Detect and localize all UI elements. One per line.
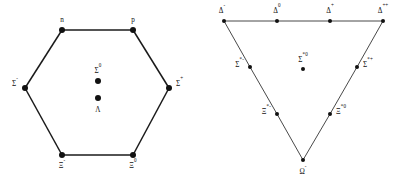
edge-Xi*0-to-Omega- (303, 114, 330, 160)
node-dot-Xi*0 (328, 112, 332, 116)
node-dot-Sigma*+ (355, 65, 359, 69)
label-Sigma*-: Σ*- (235, 56, 244, 69)
edge-Omega--to-Xi*- (277, 114, 303, 160)
particle-multiplet-figure: npΣ+Ξ0Ξ-Σ- Σ0Λ Δ-Δ0Δ+Δ++Σ*+Ξ*0Ω-Ξ*-Σ*- Σ… (0, 0, 400, 182)
node-dot-Delta- (222, 19, 226, 23)
decuplet-node-group: Δ-Δ0Δ+Δ++Σ*+Ξ*0Ω-Ξ*-Σ*- (219, 2, 389, 176)
baryon-decuplet-diagram: Δ-Δ0Δ+Δ++Σ*+Ξ*0Ω-Ξ*-Σ*- Σ*0 (0, 0, 400, 182)
decuplet-interior-group: Σ*0 (298, 51, 308, 71)
label-Delta+: Δ+ (326, 2, 334, 15)
node-dot-Delta++ (381, 19, 385, 23)
label-Sigma*+: Σ*+ (363, 56, 373, 69)
label-superscript: - (223, 2, 225, 8)
node-dot-Delta+ (328, 19, 332, 23)
label-Omega-: Ω- (299, 163, 306, 176)
label-superscript: 0 (278, 2, 281, 8)
label-superscript: *- (267, 103, 272, 109)
label-Xi*-: Ξ*- (262, 103, 271, 116)
label-Delta-: Δ- (219, 2, 226, 15)
label-superscript: *- (240, 56, 245, 62)
node-dot-Sigma*- (248, 65, 252, 69)
label-Delta0: Δ0 (273, 2, 281, 15)
node-dot-Sigma*0 (301, 67, 305, 71)
label-superscript: + (331, 2, 334, 8)
node-dot-Omega- (301, 158, 305, 162)
label-Sigma*0: Σ*0 (298, 51, 308, 64)
node-dot-Xi*- (275, 112, 279, 116)
node-dot-Delta0 (275, 19, 279, 23)
label-Delta++: Δ++ (378, 2, 389, 15)
label-superscript: *0 (341, 103, 347, 109)
label-Xi*0: Ξ*0 (336, 103, 346, 116)
decuplet-edge-group (224, 21, 383, 160)
edge-Xi*--to-Sigma*- (250, 67, 277, 114)
label-superscript: *+ (367, 56, 373, 62)
label-superscript: *0 (303, 51, 309, 57)
label-superscript: - (305, 163, 307, 169)
label-superscript: ++ (382, 2, 388, 8)
